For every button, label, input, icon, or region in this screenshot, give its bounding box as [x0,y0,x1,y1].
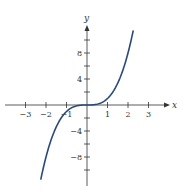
x-tick-label: −2 [40,110,52,119]
y-tick-label: 4 [77,75,82,84]
y-axis-label: y [83,13,90,23]
y-tick-label: −4 [70,127,82,136]
cubic-function-graph: −3−2−112384−4−8 x y [0,0,186,196]
x-axis-label: x [172,100,177,110]
x-tick-label: 3 [146,110,151,119]
x-tick-label: 1 [105,110,110,119]
x-axis-arrow-icon [164,103,170,108]
x-tick-label: 2 [125,110,130,119]
y-tick-label: 8 [77,49,82,58]
y-tick-label: −8 [70,153,82,162]
x-tick-label: −3 [20,110,32,119]
y-axis-arrow-icon [85,25,90,31]
